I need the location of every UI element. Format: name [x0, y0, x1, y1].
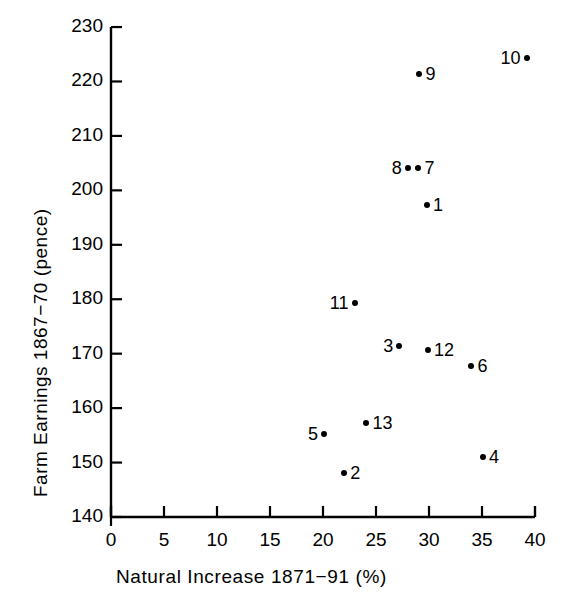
y-tick-label: 140: [49, 505, 103, 527]
y-tick-label: 220: [49, 69, 103, 91]
data-point-label: 9: [425, 65, 435, 83]
y-tick-label: 230: [49, 15, 103, 37]
x-tick-label: 25: [356, 529, 396, 551]
y-tick-label: 170: [49, 342, 103, 364]
x-tick-label: 35: [462, 529, 502, 551]
data-point-marker: [352, 300, 358, 306]
y-tick-label: 200: [49, 178, 103, 200]
data-point-label: 8: [392, 159, 402, 177]
data-point-marker: [415, 165, 421, 171]
y-tick-label: 180: [49, 287, 103, 309]
data-point-marker: [424, 202, 430, 208]
x-axis-title: Natural Increase 1871−91 (%): [116, 566, 387, 588]
data-point-label: 3: [383, 337, 393, 355]
x-tick-label: 5: [144, 529, 184, 551]
y-tick-label: 160: [49, 396, 103, 418]
data-point-label: 7: [424, 159, 434, 177]
x-tick-label: 40: [515, 529, 555, 551]
x-tick-label: 30: [409, 529, 449, 551]
data-point-label: 5: [308, 425, 318, 443]
data-point-marker: [341, 470, 347, 476]
x-tick-label: 10: [197, 529, 237, 551]
data-point-marker: [425, 347, 431, 353]
data-point-label: 2: [350, 464, 360, 482]
x-tick-label: 15: [250, 529, 290, 551]
data-point-marker: [416, 71, 422, 77]
data-point-label: 13: [372, 414, 392, 432]
data-point-marker: [405, 165, 411, 171]
data-point-marker: [468, 363, 474, 369]
y-tick-label: 210: [49, 124, 103, 146]
data-point-label: 11: [330, 294, 349, 312]
data-point-marker: [396, 343, 402, 349]
data-point-marker: [363, 420, 369, 426]
scatter-chart: 140150160170180190200210220230 051015202…: [0, 0, 567, 611]
y-tick-label: 150: [49, 451, 103, 473]
data-point-label: 12: [434, 341, 454, 359]
data-point-label: 4: [489, 448, 499, 466]
data-point-marker: [524, 55, 530, 61]
x-tick-label: 20: [303, 529, 343, 551]
y-tick-label: 190: [49, 233, 103, 255]
data-point-marker: [480, 454, 486, 460]
y-axis-title: Farm Earnings 1867−70 (pence): [30, 208, 52, 497]
data-point-label: 10: [501, 49, 521, 67]
data-point-label: 1: [433, 196, 443, 214]
x-tick-label: 0: [91, 529, 131, 551]
data-point-marker: [321, 431, 327, 437]
data-point-label: 6: [477, 357, 487, 375]
